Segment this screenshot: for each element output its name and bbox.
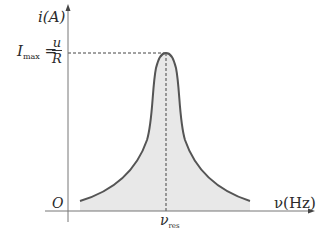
vres-label: νres — [160, 212, 180, 230]
origin-label: O — [52, 195, 63, 211]
vres-subscript: res — [169, 222, 180, 230]
y-axis-arrow — [66, 4, 71, 11]
curve-fill — [80, 53, 250, 211]
imax-numerator: u — [52, 36, 62, 51]
y-axis-label: i(A) — [38, 8, 65, 26]
x-axis-label: ν(Hz) — [274, 194, 316, 212]
imax-denominator: R — [51, 52, 63, 66]
vres-symbol: ν — [160, 212, 169, 228]
imax-subscript: max — [23, 52, 40, 61]
